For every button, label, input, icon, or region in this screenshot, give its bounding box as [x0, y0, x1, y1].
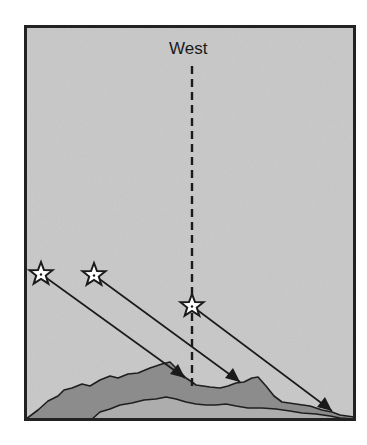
west-label: West: [169, 39, 208, 58]
sky-background: [26, 27, 354, 419]
celestial-diagram: West: [0, 0, 367, 445]
